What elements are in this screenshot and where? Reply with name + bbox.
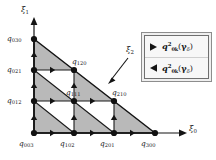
- axis-label-xi0: ξ0: [189, 125, 197, 134]
- axis-label-xi1: ξ1: [21, 6, 29, 15]
- node-dot-q012: [31, 98, 37, 104]
- node-dot-q120: [71, 67, 77, 73]
- node-label-subscript: 012: [12, 99, 22, 105]
- node-dot-q210: [111, 98, 117, 104]
- legend-box: q20k(γδ) q20k(γδ): [141, 32, 212, 82]
- node-label-subscript: 102: [65, 142, 75, 148]
- node-label-q012: q012: [7, 97, 21, 105]
- xi2-pointer: [108, 58, 128, 84]
- legend-label-right: q20k(γδ): [162, 41, 193, 52]
- legend-label-left: q20k(γδ): [162, 63, 193, 74]
- node-dot-q201: [111, 130, 117, 136]
- node-label-subscript: 111: [71, 91, 81, 97]
- node-dot-q111: [71, 98, 77, 104]
- node-label-subscript: 003: [24, 142, 34, 148]
- node-label-q102: q102: [60, 140, 74, 148]
- node-label-q111: q111: [66, 89, 80, 97]
- node-dot-q021: [31, 67, 37, 73]
- node-label-q210: q210: [112, 89, 126, 97]
- node-dot-q030: [31, 36, 37, 42]
- node-label-q300: q300: [141, 140, 155, 148]
- vertical-axis-arrowhead: [31, 17, 38, 25]
- left-triangle-marker: [149, 63, 158, 73]
- legend-inner: q20k(γδ) q20k(γδ): [144, 35, 209, 79]
- node-label-subscript: 030: [12, 37, 22, 43]
- node-dot-q102: [71, 130, 77, 136]
- node-label-q120: q120: [72, 58, 86, 66]
- legend-entry-right: q20k(γδ): [145, 36, 208, 57]
- node-label-subscript: 120: [77, 60, 87, 66]
- node-label-q030: q030: [7, 35, 21, 43]
- legend-entry-left: q20k(γδ): [145, 57, 208, 78]
- node-label-q201: q201: [100, 140, 114, 148]
- node-dot-q300: [152, 130, 158, 136]
- node-dot-q003: [31, 130, 37, 136]
- right-triangle-marker: [149, 42, 158, 52]
- node-label-subscript: 210: [117, 91, 127, 97]
- horizontal-axis-arrowhead: [179, 130, 187, 137]
- node-label-subscript: 201: [105, 142, 115, 148]
- figure-root: q003q102q201q300q012q111q210q021q120q030…: [0, 0, 216, 160]
- node-label-subscript: 300: [146, 142, 156, 148]
- node-label-q021: q021: [7, 66, 21, 74]
- node-label-q003: q003: [19, 140, 33, 148]
- axis-label-xi2: ξ2: [126, 46, 134, 55]
- node-label-subscript: 021: [12, 68, 22, 74]
